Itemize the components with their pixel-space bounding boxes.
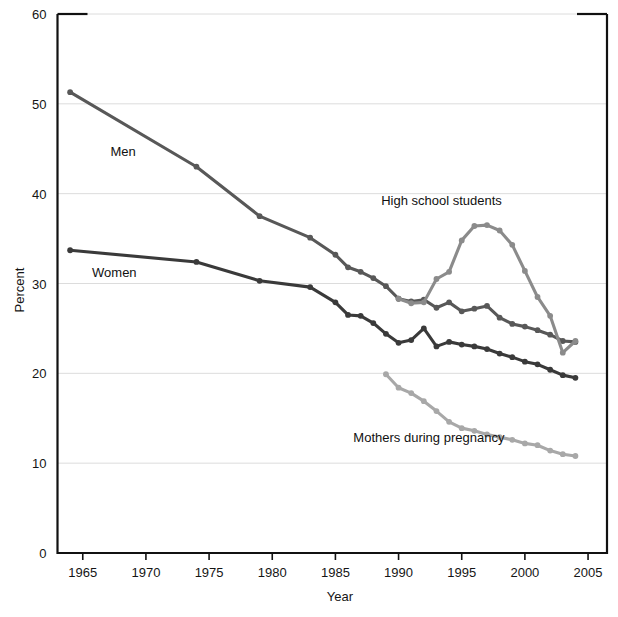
data-point	[573, 338, 579, 344]
data-series-layer	[67, 89, 578, 459]
data-point	[446, 269, 452, 275]
x-tick-label: 1995	[447, 565, 476, 580]
data-point	[484, 222, 490, 228]
data-point	[471, 306, 477, 312]
data-point	[497, 315, 503, 321]
data-point	[67, 89, 73, 95]
data-point	[434, 276, 440, 282]
data-point	[194, 164, 200, 170]
data-point	[370, 320, 376, 326]
data-point	[396, 385, 402, 391]
x-tick-label: 1985	[321, 565, 350, 580]
data-point	[547, 313, 553, 319]
data-point	[484, 303, 490, 309]
data-point	[560, 372, 566, 378]
data-point	[345, 312, 351, 318]
series-annotations: MenWomenHigh school studentsMothers duri…	[92, 144, 505, 445]
data-point	[408, 337, 414, 343]
data-point	[522, 324, 528, 330]
x-tick-label: 1970	[131, 565, 160, 580]
y-tick-label: 30	[32, 277, 46, 292]
x-tick-label: 1980	[258, 565, 287, 580]
data-point	[535, 294, 541, 300]
data-point	[434, 305, 440, 311]
data-point	[421, 398, 427, 404]
data-point	[509, 321, 515, 327]
y-tick-label: 0	[39, 546, 46, 561]
data-point	[333, 299, 339, 305]
data-point	[560, 350, 566, 356]
x-tick-label: 2000	[510, 565, 539, 580]
data-point	[194, 259, 200, 265]
data-point	[307, 235, 313, 241]
y-tick-label: 10	[32, 456, 46, 471]
series-line	[70, 250, 575, 378]
data-point	[434, 408, 440, 414]
data-point	[408, 300, 414, 306]
data-point	[446, 339, 452, 345]
series-label-high-school-students: High school students	[381, 193, 502, 208]
x-tick-label: 1990	[384, 565, 413, 580]
y-axis-title: Percent	[12, 267, 27, 312]
line-chart: 196519701975198019851990199520002005 010…	[0, 0, 618, 617]
x-tick-label: 1965	[68, 565, 97, 580]
data-point	[446, 299, 452, 305]
y-tick-label: 20	[32, 366, 46, 381]
data-point	[383, 283, 389, 289]
y-tick-label: 60	[32, 7, 46, 22]
data-point	[547, 332, 553, 338]
data-point	[535, 361, 541, 367]
data-point	[471, 343, 477, 349]
data-point	[509, 242, 515, 248]
data-point	[522, 359, 528, 365]
data-point	[421, 299, 427, 305]
data-point	[370, 275, 376, 281]
data-point	[547, 367, 553, 373]
data-point	[509, 437, 515, 443]
gridlines	[58, 14, 608, 463]
data-point	[484, 346, 490, 352]
data-point	[383, 371, 389, 377]
x-tick-label: 2005	[574, 565, 603, 580]
data-point	[497, 228, 503, 234]
data-point	[497, 351, 503, 357]
data-point	[446, 419, 452, 425]
data-point	[471, 223, 477, 229]
series-label-mothers-during-pregnancy: Mothers during pregnancy	[353, 430, 505, 445]
x-axis-title: Year	[327, 589, 354, 604]
series-mothers-during-pregnancy	[383, 371, 578, 459]
data-point	[535, 442, 541, 448]
data-point	[345, 264, 351, 270]
y-tick-label: 40	[32, 187, 46, 202]
data-point	[547, 448, 553, 454]
data-point	[434, 343, 440, 349]
data-point	[421, 326, 427, 332]
series-label-women: Women	[92, 265, 137, 280]
data-point	[573, 453, 579, 459]
data-point	[257, 213, 263, 219]
data-point	[358, 313, 364, 319]
data-point	[560, 451, 566, 457]
data-point	[307, 284, 313, 290]
chart-container: 196519701975198019851990199520002005 010…	[0, 0, 618, 617]
data-point	[573, 375, 579, 381]
y-axis-tick-labels: 0102030405060	[32, 7, 46, 561]
x-tick-label: 1975	[195, 565, 224, 580]
data-point	[358, 269, 364, 275]
data-point	[333, 252, 339, 258]
series-women	[67, 247, 578, 380]
x-axis-tick-labels: 196519701975198019851990199520002005	[68, 565, 602, 580]
data-point	[383, 331, 389, 337]
data-point	[509, 354, 515, 360]
data-point	[522, 268, 528, 274]
data-point	[522, 441, 528, 447]
data-point	[67, 247, 73, 253]
data-point	[396, 340, 402, 346]
data-point	[459, 342, 465, 348]
data-point	[396, 296, 402, 302]
data-point	[459, 237, 465, 243]
series-line	[70, 92, 575, 342]
series-men	[67, 89, 578, 345]
data-point	[257, 278, 263, 284]
data-point	[459, 308, 465, 314]
